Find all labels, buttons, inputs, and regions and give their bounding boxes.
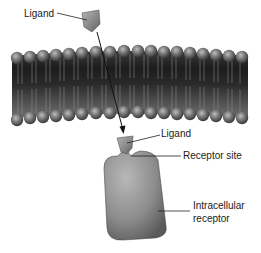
ligand-bound bbox=[117, 136, 133, 154]
ligand-label: Ligand bbox=[24, 8, 54, 20]
ligand-bound-label: Ligand bbox=[161, 128, 191, 140]
intracellular-receptor-label-line2: receptor bbox=[193, 213, 230, 225]
intracellular-receptor bbox=[104, 151, 166, 240]
diagram-canvas: Ligand Ligand Receptor site Intracellula… bbox=[0, 0, 261, 253]
plasma-membrane bbox=[11, 45, 248, 126]
ligand-extracellular bbox=[82, 10, 100, 32]
intracellular-receptor-label-line1: Intracellular bbox=[193, 200, 245, 212]
receptor-site-label: Receptor site bbox=[183, 150, 242, 162]
